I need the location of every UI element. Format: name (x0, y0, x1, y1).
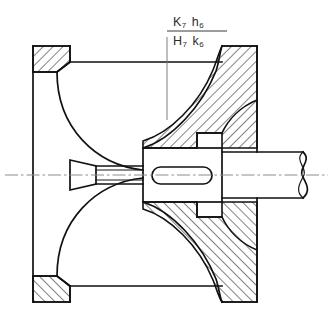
tol-num-letter-2: h (192, 15, 199, 29)
sectional-assembly-drawing: K7h6 H7k6 (0, 0, 333, 321)
tol-den-grade-2: 6 (199, 40, 204, 49)
tol-num-grade-2: 6 (199, 21, 204, 30)
tolerance-numerator: K7h6 (173, 15, 204, 30)
cavity-arc-lower (57, 178, 143, 276)
tol-den-grade-1: 7 (183, 40, 188, 49)
tol-den-letter-1: H (173, 34, 183, 48)
tolerance-denominator: H7k6 (173, 34, 204, 49)
top-left-flange (33, 46, 70, 72)
technical-drawing-canvas: K7h6 H7k6 (0, 0, 333, 321)
bottom-left-flange (33, 276, 70, 302)
cavity-arc-upper (57, 72, 143, 170)
tol-num-grade-1: 7 (182, 21, 187, 30)
tol-num-letter-1: K (173, 15, 182, 29)
